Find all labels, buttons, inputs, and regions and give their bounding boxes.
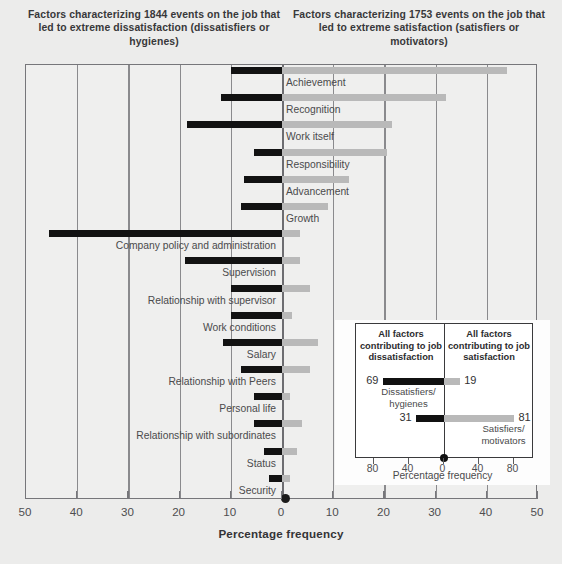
inset-summary-chart: All factors contributing to job dissatis… <box>335 320 550 485</box>
inset-satisfaction-value: 81 <box>518 411 530 423</box>
x-axis-tick <box>76 491 77 499</box>
x-axis-tick <box>383 491 384 499</box>
bar-row: Relationship with supervisor <box>26 283 536 310</box>
bar-row-label: Achievement <box>286 76 346 89</box>
bar-row-label: Security <box>239 484 276 497</box>
satisfaction-bar <box>282 339 318 346</box>
dissatisfaction-bar <box>244 176 282 183</box>
x-axis-tick <box>25 491 26 499</box>
bar-row-label: Advancement <box>286 185 349 198</box>
x-axis-tick <box>486 491 487 499</box>
bar-row-label: Supervision <box>222 266 276 279</box>
x-axis-tick-label: 20 <box>172 505 185 518</box>
x-axis-tick <box>127 491 128 499</box>
bar-row-label: Company policy and administration <box>116 239 276 252</box>
bar-row-label: Personal life <box>219 402 276 415</box>
dissatisfaction-bar <box>223 339 282 346</box>
header-dissatisfaction: Factors characterizing 1844 events on th… <box>22 8 286 48</box>
dissatisfaction-bar <box>231 67 282 74</box>
satisfaction-bar <box>282 257 300 264</box>
x-axis-tick-label: 10 <box>223 505 236 518</box>
x-axis-tick-label: 40 <box>479 505 492 518</box>
x-axis-tick-label: 30 <box>428 505 441 518</box>
x-axis-tick <box>281 491 282 499</box>
bar-row-label: Growth <box>286 212 319 225</box>
inset-dissatisfaction-value: 69 <box>366 374 378 386</box>
bar-row-label: Relationship with supervisor <box>148 294 276 307</box>
x-axis-tick-label: 30 <box>121 505 134 518</box>
dissatisfaction-bar <box>241 203 282 210</box>
dissatisfaction-bar <box>187 121 282 128</box>
satisfaction-bar <box>282 448 297 455</box>
herzberg-two-factor-chart: Factors characterizing 1844 events on th… <box>0 0 562 564</box>
bar-row: Work itself <box>26 119 536 146</box>
bar-row: Growth <box>26 201 536 228</box>
dissatisfaction-bar <box>231 285 282 292</box>
satisfaction-bar <box>282 393 290 400</box>
dissatisfaction-bar <box>185 257 282 264</box>
satisfaction-bar <box>282 67 507 74</box>
bar-row-label: Salary <box>247 348 276 361</box>
bar-row-label: Relationship with Peers <box>168 375 276 388</box>
inset-satisfaction-value: 19 <box>464 374 476 386</box>
inset-satisfaction-bar <box>444 415 515 422</box>
dissatisfaction-bar <box>269 475 282 482</box>
bar-row-label: Recognition <box>286 103 340 116</box>
satisfaction-bar <box>282 312 292 319</box>
inset-x-axis: 804004080 <box>355 458 533 468</box>
dissatisfaction-bar <box>221 94 282 101</box>
bar-row: Advancement <box>26 174 536 201</box>
x-axis-tick-label: 0 <box>278 505 284 518</box>
bar-row: Supervision <box>26 255 536 282</box>
x-axis-tick-label: 50 <box>19 505 32 518</box>
satisfaction-bar <box>282 94 446 101</box>
bar-row-label: Relationship with subordinates <box>136 429 276 442</box>
satisfaction-bar <box>282 475 290 482</box>
satisfaction-bar <box>282 366 310 373</box>
dissatisfaction-bar <box>241 366 282 373</box>
bar-row-label: Responsibility <box>286 158 350 171</box>
bar-row-label: Work itself <box>286 130 334 143</box>
x-axis-tick <box>179 491 180 499</box>
satisfaction-bar <box>282 420 302 427</box>
dissatisfaction-bar <box>254 393 282 400</box>
satisfaction-bar <box>282 285 310 292</box>
bar-row: Company policy and administration <box>26 228 536 255</box>
x-axis-tick <box>435 491 436 499</box>
inset-dissatisfaction-bar <box>416 415 443 422</box>
inset-dissatisfaction-value: 31 <box>399 411 411 423</box>
x-axis-tick-label: 20 <box>377 505 390 518</box>
inset-row-caption: Dissatisfiers/hygienes <box>354 386 464 409</box>
satisfaction-bar <box>282 149 387 156</box>
dissatisfaction-bar <box>254 149 282 156</box>
bar-row-label: Status <box>247 457 276 470</box>
inset-dissatisfaction-bar <box>383 378 443 385</box>
bar-row: Achievement <box>26 65 536 92</box>
chart-headers: Factors characterizing 1844 events on th… <box>0 8 562 58</box>
x-axis-tick-labels: 504030201001020304050 <box>0 505 562 523</box>
x-axis-tick <box>332 491 333 499</box>
x-axis-tick <box>537 491 538 499</box>
inset-satisfaction-bar <box>444 378 461 385</box>
header-satisfaction: Factors characterizing 1753 events on th… <box>290 8 548 48</box>
bar-row: Responsibility <box>26 147 536 174</box>
dissatisfaction-bar <box>231 312 282 319</box>
bar-row: Recognition <box>26 92 536 119</box>
satisfaction-bar <box>282 121 392 128</box>
x-axis-tick <box>230 491 231 499</box>
dissatisfaction-bar <box>49 230 282 237</box>
inset-axis-title: Percentage frequency <box>335 470 550 481</box>
dissatisfaction-bar <box>254 420 282 427</box>
satisfaction-bar <box>282 203 328 210</box>
satisfaction-bar <box>282 230 300 237</box>
x-axis-tick-label: 40 <box>70 505 83 518</box>
x-axis-tick-label: 10 <box>326 505 339 518</box>
dissatisfaction-bar <box>264 448 282 455</box>
satisfaction-bar <box>282 176 349 183</box>
inset-frame: All factors contributing to job dissatis… <box>355 323 533 458</box>
inset-header-dissatisfaction: All factors contributing to job dissatis… <box>358 329 444 364</box>
x-axis-tick-label: 50 <box>531 505 544 518</box>
inset-header-satisfaction: All factors contributing to job satisfac… <box>446 329 532 364</box>
bar-row-label: Work conditions <box>203 321 276 334</box>
inset-row-caption: Satisfiers/motivators <box>449 423 559 446</box>
